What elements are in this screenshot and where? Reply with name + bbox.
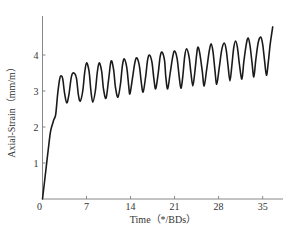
x-tick-label: 7: [84, 201, 89, 212]
x-tick-label: 28: [214, 201, 224, 212]
x-tick-label: 14: [126, 201, 136, 212]
y-tick-label: 3: [34, 86, 39, 97]
x-axis-label: Time（*/BDs）: [130, 214, 196, 225]
series-line: [43, 27, 273, 199]
x-tick-label: 21: [170, 201, 180, 212]
chart-container: 0714212835 1234 Time（*/BDs） Axial-Strain…: [0, 0, 306, 234]
x-tick-label: 0: [37, 201, 42, 212]
x-ticks: 0714212835: [37, 196, 268, 212]
chart-svg: 0714212835 1234 Time（*/BDs） Axial-Strain…: [0, 0, 306, 234]
y-tick-label: 1: [34, 158, 39, 169]
data-series: [43, 27, 273, 199]
x-tick-label: 35: [258, 201, 268, 212]
y-axis-label: Axial-Strain（mm/m）: [6, 62, 17, 158]
y-ticks: 1234: [34, 50, 46, 169]
y-tick-label: 2: [34, 122, 39, 133]
y-tick-label: 4: [34, 50, 39, 61]
